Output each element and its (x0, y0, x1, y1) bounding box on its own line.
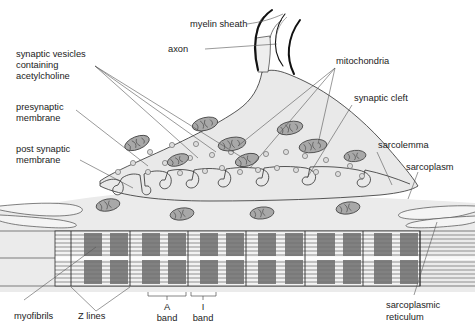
label-myelin-sheath: myelin sheath (190, 19, 247, 29)
label-sarcolemma: sarcolemma (378, 140, 429, 150)
label-postsynaptic-membrane-line2: membrane (16, 155, 60, 165)
label-sarcoplasmic-reticulum-line1: sarcoplasmic (386, 300, 441, 310)
label-myofibrils: myofibrils (14, 311, 54, 321)
myofibril-region (0, 231, 475, 286)
label-z-lines: Z lines (78, 311, 106, 321)
label-i-band-line1: I (202, 302, 205, 312)
label-synaptic-vesicles-line3: acetylcholine (16, 71, 70, 81)
label-synaptic-cleft: synaptic cleft (354, 93, 408, 103)
label-sarcoplasmic-reticulum-line2: reticulum (386, 312, 424, 322)
sarcoplasmic-reticulum-left (0, 203, 82, 228)
label-axon: axon (168, 44, 188, 54)
label-synaptic-vesicles-line1: synaptic vesicles (16, 49, 86, 59)
label-a-band-line1: A (164, 302, 171, 312)
neuromuscular-junction-figure: myelin sheath axon synaptic vesicles con… (0, 0, 475, 333)
label-a-band-line2: band (157, 313, 178, 323)
label-presynaptic-membrane-line2: membrane (16, 113, 60, 123)
label-postsynaptic-membrane-line1: post synaptic (16, 144, 71, 154)
label-synaptic-vesicles-line2: containing (16, 60, 58, 70)
label-mitochondria: mitochondria (336, 56, 390, 66)
label-sarcoplasm: sarcoplasm (406, 162, 454, 172)
label-i-band-line2: band (193, 313, 214, 323)
label-presynaptic-membrane-line1: presynaptic (16, 102, 64, 112)
